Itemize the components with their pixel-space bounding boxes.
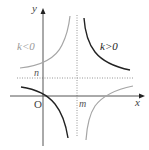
y-axis-arrow-icon	[41, 8, 46, 14]
y-axis-label: y	[31, 2, 37, 14]
k-negative-label: k<0	[17, 40, 35, 52]
x-axis-arrow-icon	[139, 94, 145, 99]
x-axis-label: x	[134, 96, 140, 108]
hyperbola-diagram: y x O m n k<0 k>0	[0, 0, 149, 150]
asymptote-n-label: n	[34, 67, 39, 78]
k-positive-label: k>0	[100, 40, 118, 52]
curve-k-positive-lower-left	[21, 87, 68, 138]
origin-label: O	[34, 98, 42, 110]
asymptote-m-label: m	[79, 98, 86, 109]
curve-k-negative-lower-right	[86, 86, 133, 140]
